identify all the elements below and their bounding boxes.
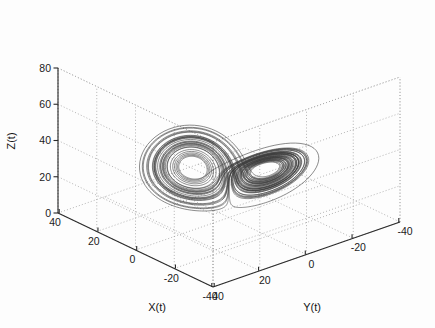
x-axis-tick-label: 20 xyxy=(88,235,100,247)
z-axis-tick-label: 80 xyxy=(39,62,51,74)
floor-gridline-y xyxy=(105,197,260,271)
y-axis-tick-label: -40 xyxy=(397,225,412,237)
x-axis-tick-label: 0 xyxy=(130,253,136,265)
attractor-curve xyxy=(140,125,319,211)
y-axis-tick-label: 20 xyxy=(259,274,271,286)
z-axis-tick-label: 40 xyxy=(39,134,51,146)
y-axis-tick-label: 0 xyxy=(309,258,315,270)
floor-gridline-x xyxy=(174,204,361,269)
plot-area: 02040608040200-20-4040200-20-40 X(t)Y(t)… xyxy=(0,0,435,328)
figure-canvas: 02040608040200-20-4040200-20-40 X(t)Y(t)… xyxy=(0,0,435,328)
z-axis-tick-label: 60 xyxy=(39,98,51,110)
y-axis-tick-label: 40 xyxy=(212,290,224,302)
attractor-trajectory-path xyxy=(140,125,319,211)
x-axis-label: X(t) xyxy=(148,301,166,313)
x-axis-tick-label: -20 xyxy=(164,272,179,284)
z-axis-tick-label: 20 xyxy=(39,171,51,183)
y-axis-tick-label: -20 xyxy=(351,241,366,253)
y-axis-label: Y(t) xyxy=(303,301,321,313)
x-axis-tick-label: 40 xyxy=(49,216,61,228)
z-axis-label: Z(t) xyxy=(5,132,17,149)
